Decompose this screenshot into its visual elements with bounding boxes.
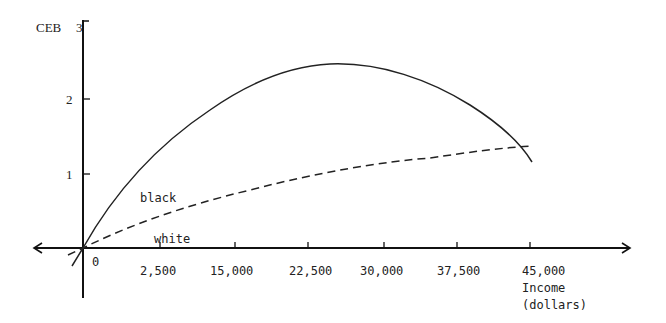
- x-tick-label: 30,000: [360, 264, 403, 278]
- series-black-line: [72, 64, 532, 266]
- y-tick-label-1: 1: [66, 167, 73, 182]
- series-label-black: black: [140, 191, 177, 205]
- origin-label: 0: [92, 255, 99, 269]
- x-axis-title-line1: Income: [522, 281, 565, 295]
- chart-canvas: CEB 3 2 1 0 2,500 15,000 22,500 30,000 3…: [0, 0, 666, 323]
- series-label-white: white: [154, 232, 190, 246]
- x-tick-label: 37,500: [437, 264, 480, 278]
- x-axis-title-line2: (dollars): [522, 298, 587, 312]
- x-tick-label: 15,000: [210, 264, 253, 278]
- x-tick-label: 45,000: [522, 264, 565, 278]
- y-tick-label-3: 3: [76, 20, 83, 35]
- series-white-line: [68, 146, 531, 255]
- y-tick-label-2: 2: [66, 92, 73, 107]
- x-tick-label: 22,500: [289, 264, 332, 278]
- x-tick-label: 2,500: [140, 264, 176, 278]
- y-axis-title: CEB: [36, 20, 62, 35]
